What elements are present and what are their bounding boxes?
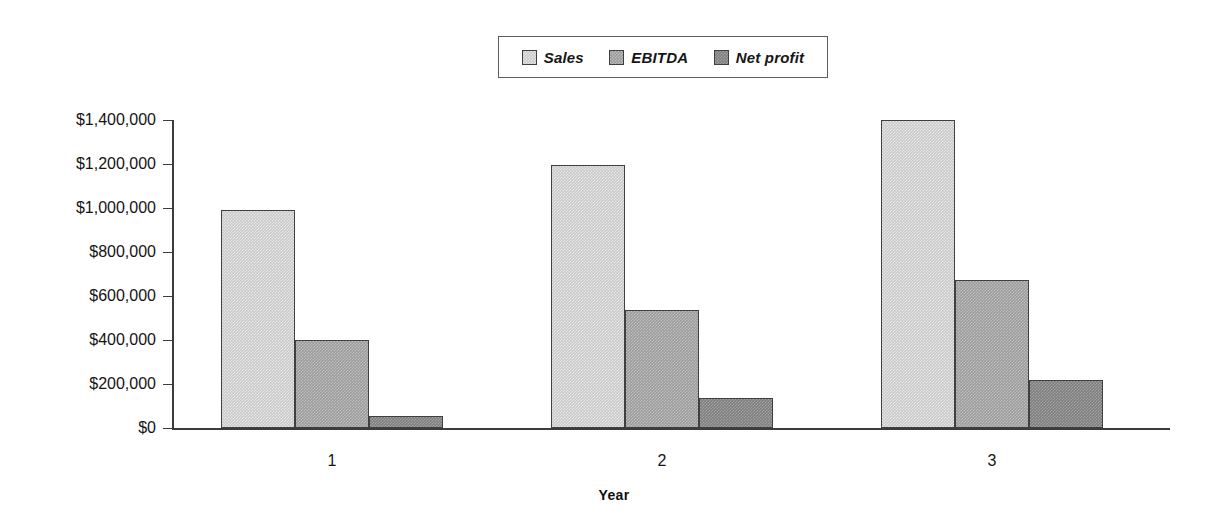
y-axis-tick-label: $200,000 — [89, 374, 156, 394]
y-axis-tick: $1,000,000 — [163, 208, 172, 209]
bar-sales-year-1 — [221, 210, 295, 428]
x-axis-category-label: 1 — [328, 452, 337, 470]
x-axis-title: Year — [0, 487, 1228, 503]
x-axis-category-label: 2 — [658, 452, 667, 470]
y-axis-tick-label: $400,000 — [89, 330, 156, 350]
x-axis-line — [172, 428, 1170, 430]
plot-area: $0$200,000$400,000$600,000$800,000$1,000… — [172, 120, 1170, 428]
bar-net-profit-year-1 — [369, 416, 443, 428]
y-axis-tick-label: $1,000,000 — [76, 198, 156, 218]
y-axis-tick: $1,200,000 — [163, 164, 172, 165]
legend-swatch-net-profit — [714, 50, 729, 65]
y-axis-line — [172, 120, 174, 429]
bar-ebitda-year-3 — [955, 280, 1029, 428]
x-axis-category-label: 3 — [988, 452, 997, 470]
y-axis-tick-label: $0 — [138, 418, 156, 438]
legend-entry-ebitda: EBITDA — [609, 49, 688, 66]
bar-ebitda-year-2 — [625, 310, 699, 428]
bar-ebitda-year-1 — [295, 340, 369, 428]
legend-entry-net-profit: Net profit — [714, 49, 805, 66]
y-axis-tick-label: $600,000 — [89, 286, 156, 306]
y-axis-tick: $800,000 — [163, 252, 172, 253]
bar-sales-year-2 — [551, 165, 625, 428]
y-axis-tick: $1,400,000 — [163, 120, 172, 121]
y-axis-tick-label: $1,200,000 — [76, 154, 156, 174]
legend-label-ebitda: EBITDA — [631, 49, 688, 66]
y-axis-tick: $400,000 — [163, 340, 172, 341]
y-axis-tick: $200,000 — [163, 384, 172, 385]
legend-entry-sales: Sales — [522, 49, 584, 66]
legend-label-sales: Sales — [544, 49, 584, 66]
y-axis-tick: $600,000 — [163, 296, 172, 297]
legend-label-net-profit: Net profit — [736, 49, 805, 66]
legend-swatch-sales — [522, 50, 537, 65]
bar-net-profit-year-2 — [699, 398, 773, 428]
bar-sales-year-3 — [881, 120, 955, 428]
chart-legend: Sales EBITDA Net profit — [498, 36, 828, 78]
legend-swatch-ebitda — [609, 50, 624, 65]
bar-chart: Sales EBITDA Net profit $0$200,000$400,0… — [0, 0, 1228, 530]
y-axis-tick: $0 — [163, 428, 172, 429]
y-axis-tick-label: $800,000 — [89, 242, 156, 262]
bar-net-profit-year-3 — [1029, 380, 1103, 428]
y-axis-tick-label: $1,400,000 — [76, 110, 156, 130]
